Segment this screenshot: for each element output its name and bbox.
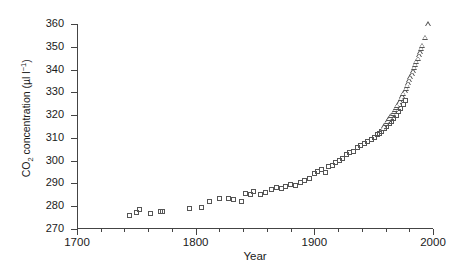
plot-area <box>77 24 433 229</box>
x-tick-1840 <box>243 229 244 232</box>
data-point-square <box>207 199 212 204</box>
x-tick-1920 <box>338 229 339 232</box>
data-point-square <box>239 199 244 204</box>
data-point-square <box>403 98 408 103</box>
data-point-square <box>148 211 153 216</box>
x-tick-1860 <box>267 229 268 232</box>
x-tick-major-2000 <box>433 229 434 235</box>
y-axis-label-suffix: ) <box>20 59 32 63</box>
data-point-square <box>307 176 312 181</box>
x-tick-1740 <box>124 229 125 232</box>
y-tick-label-300: 300 <box>20 155 64 166</box>
x-tick-label-1800: 1800 <box>166 236 226 248</box>
x-tick-1720 <box>101 229 102 232</box>
co2-concentration-chart: CO2 concentration (µl l−1) Year 27028029… <box>0 0 452 274</box>
data-point-square <box>263 190 268 195</box>
data-point-square <box>127 213 132 218</box>
y-tick-label-350: 350 <box>20 41 64 52</box>
data-point-square <box>231 197 236 202</box>
x-tick-label-2000: 2000 <box>403 236 452 248</box>
x-tick-1780 <box>172 229 173 232</box>
y-tick-label-330: 330 <box>20 86 64 97</box>
x-tick-label-1700: 1700 <box>47 236 107 248</box>
y-tick-label-340: 340 <box>20 64 64 75</box>
data-point-square <box>187 206 192 211</box>
x-tick-1960 <box>386 229 387 232</box>
x-tick-1880 <box>291 229 292 232</box>
data-point-triangle <box>422 35 428 40</box>
x-tick-1820 <box>219 229 220 232</box>
y-tick-label-310: 310 <box>20 132 64 143</box>
y-tick-label-290: 290 <box>20 177 64 188</box>
data-point-square <box>137 207 142 212</box>
y-tick-label-280: 280 <box>20 200 64 211</box>
y-tick-label-320: 320 <box>20 109 64 120</box>
x-tick-1980 <box>409 229 410 232</box>
data-point-square <box>199 205 204 210</box>
x-tick-major-1900 <box>314 229 315 235</box>
data-point-triangle <box>419 43 425 48</box>
data-point-square <box>217 196 222 201</box>
x-tick-1940 <box>362 229 363 232</box>
x-tick-label-1900: 1900 <box>284 236 344 248</box>
data-point-triangle <box>425 21 431 26</box>
x-tick-major-1700 <box>77 229 78 235</box>
y-tick-label-270: 270 <box>20 223 64 234</box>
x-tick-1760 <box>148 229 149 232</box>
data-point-square <box>160 209 165 214</box>
data-point-square <box>323 170 328 175</box>
x-tick-major-1800 <box>196 229 197 235</box>
x-axis-label: Year <box>77 250 433 262</box>
data-point-square <box>251 189 256 194</box>
y-tick-label-360: 360 <box>20 18 64 29</box>
